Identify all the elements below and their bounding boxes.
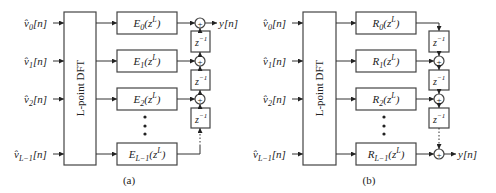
adder-b-final: + bbox=[434, 149, 444, 160]
output-label-b: y[n] bbox=[457, 148, 477, 160]
delay-b-0: z−1 bbox=[429, 31, 449, 52]
input-v0-b: v̂0[n] bbox=[263, 17, 303, 32]
adder-a-2: + bbox=[195, 94, 205, 105]
svg-text:v̂L−1[n]: v̂L−1[n] bbox=[14, 148, 47, 163]
adder-b-2: + bbox=[434, 94, 444, 105]
adder-b-1: + bbox=[434, 56, 444, 67]
filter-eL-1: EL−1(zL) bbox=[117, 143, 177, 165]
input-v2-a: v̂2[n] bbox=[24, 93, 64, 108]
ellipsis-dots-a bbox=[143, 115, 146, 135]
filter-rL-1: RL−1(zL) bbox=[356, 143, 416, 165]
svg-text:v̂2[n]: v̂2[n] bbox=[24, 93, 47, 108]
filter-e2: E2(zL) bbox=[117, 88, 177, 110]
input-v1-a: v̂1[n] bbox=[24, 55, 64, 70]
output-label-a: y[n] bbox=[218, 17, 238, 29]
filter-r2: R2(zL) bbox=[356, 88, 416, 110]
filter-e0: E0(zL) bbox=[117, 12, 177, 34]
diagram-a: v̂0[n] v̂1[n] v̂2[n] v̂L−1[n] L-point DF… bbox=[14, 12, 238, 187]
input-v2-b: v̂2[n] bbox=[263, 93, 303, 108]
svg-text:v̂1[n]: v̂1[n] bbox=[263, 55, 286, 70]
filter-r0: R0(zL) bbox=[356, 12, 416, 34]
input-v0-a: v̂0[n] bbox=[24, 17, 64, 32]
delay-a-2: z−1 bbox=[191, 108, 210, 128]
dft-label-b: L-point DFT bbox=[313, 59, 325, 116]
ellipsis-dots-b bbox=[382, 115, 385, 135]
svg-text:+: + bbox=[197, 95, 202, 105]
svg-text:v̂2[n]: v̂2[n] bbox=[263, 93, 286, 108]
svg-text:+: + bbox=[436, 150, 441, 160]
delay-b-1: z−1 bbox=[429, 70, 449, 90]
svg-text:+: + bbox=[436, 57, 441, 67]
delay-a-0: z−1 bbox=[191, 31, 210, 52]
input-vL-1-a: v̂L−1[n] bbox=[14, 148, 64, 163]
svg-text:v̂0[n]: v̂0[n] bbox=[24, 17, 47, 32]
svg-text:+: + bbox=[436, 95, 441, 105]
delay-a-1: z−1 bbox=[191, 70, 210, 90]
svg-text:+: + bbox=[197, 19, 202, 29]
svg-text:v̂0[n]: v̂0[n] bbox=[263, 17, 286, 32]
svg-text:+: + bbox=[197, 57, 202, 67]
svg-text:v̂1[n]: v̂1[n] bbox=[24, 55, 47, 70]
input-vL-1-b: v̂L−1[n] bbox=[253, 148, 303, 163]
caption-b: (b) bbox=[363, 174, 376, 187]
polyphase-filter-bank-diagrams: v̂0[n] v̂1[n] v̂2[n] v̂L−1[n] L-point DF… bbox=[0, 0, 496, 193]
dft-label-a: L-point DFT bbox=[74, 59, 86, 116]
svg-text:v̂L−1[n]: v̂L−1[n] bbox=[253, 148, 286, 163]
caption-a: (a) bbox=[123, 174, 136, 187]
diagram-b: v̂0[n] v̂1[n] v̂2[n] v̂L−1[n] L-point DF… bbox=[253, 12, 477, 187]
delay-b-2: z−1 bbox=[429, 108, 449, 128]
filter-r1: R1(zL) bbox=[356, 50, 416, 72]
input-v1-b: v̂1[n] bbox=[263, 55, 303, 70]
filter-e1: E1(zL) bbox=[117, 50, 177, 72]
adder-a-1: + bbox=[195, 56, 205, 67]
adder-a-0: + bbox=[195, 18, 205, 29]
